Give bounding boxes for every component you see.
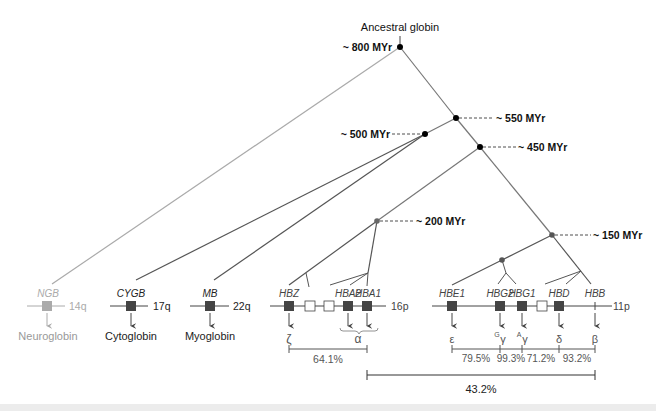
gene-label-hbb: HBB (585, 288, 606, 299)
node-150 (549, 232, 555, 238)
branch-hbg1 (506, 273, 516, 284)
product-sup-g: G (494, 331, 499, 338)
gene-label-mb: MB (203, 288, 218, 299)
identity-label-ggamma-agamma: 99.3% (497, 353, 525, 364)
product-label-alpha: α (355, 332, 362, 346)
identity-label-alpha-beta: 43.2% (465, 383, 496, 395)
gene-label-hbz: HBZ (279, 288, 300, 299)
product-label-epsilon: ε (450, 333, 455, 345)
gene-label-hba1: HBA1 (355, 288, 381, 299)
title-ancestral-globin: Ancestral globin (361, 21, 439, 33)
branch-root-550 (400, 47, 456, 118)
globin-evolution-diagram: Ancestral globin ~ 800 MYr ~ 550 MYr ~ 5… (0, 0, 656, 411)
node-label-800: ~ 800 MYr (343, 41, 392, 53)
node-label-450: ~ 450 MYr (518, 141, 567, 153)
product-label-cygb: Cytoglobin (105, 330, 157, 342)
identity-label-agamma-delta: 71.2% (527, 353, 555, 364)
gene-box-hba1 (362, 301, 372, 311)
product-label-g-gamma: γ (500, 333, 506, 345)
branch-ngb (52, 47, 400, 284)
diagram-canvas: Ancestral globin ~ 800 MYr ~ 550 MYr ~ 5… (0, 0, 656, 411)
chromosome-label-16p: 16p (391, 300, 409, 312)
node-500 (422, 131, 428, 137)
gene-box-hba2 (343, 301, 353, 311)
branch-hba2-b (350, 273, 368, 285)
gene-box-hbz (284, 301, 294, 311)
branch-hba (368, 221, 377, 273)
gene-label-hbg1: HBG1 (508, 288, 535, 299)
chromosome-label-11p: 11p (613, 300, 630, 312)
branch-550-500 (425, 118, 456, 134)
branch-mb (214, 134, 425, 280)
branch-hbb (552, 235, 591, 284)
gene-box-mb (205, 301, 215, 311)
node-label-550: ~ 550 MYr (496, 112, 545, 124)
node-label-150: ~ 150 MYr (593, 229, 642, 241)
identity-label-zeta-alpha: 64.1% (313, 353, 343, 365)
gene-box-hbg1 (517, 301, 527, 311)
pseudogene-box-1 (305, 301, 315, 311)
gene-box-hbd (554, 301, 564, 311)
chromosome-label-ngb: 14q (69, 300, 87, 312)
product-label-ngb: Neuroglobin (18, 330, 77, 342)
gene-box-hbe1 (447, 301, 457, 311)
pseudogene-box-3 (537, 301, 547, 311)
node-450 (477, 144, 483, 150)
branch-hba2-a (330, 273, 368, 285)
product-label-a-gamma: γ (522, 333, 528, 345)
node-800 (397, 44, 403, 50)
branch-450-150 (480, 147, 552, 235)
identity-label-epsilon-ggamma: 79.5% (462, 353, 490, 364)
product-label-zeta: ζ (286, 332, 292, 346)
product-label-mb: Myoglobin (185, 330, 235, 342)
branch-hba1 (367, 273, 368, 286)
pseudogene-box-2 (324, 301, 334, 311)
branch-hbg2 (498, 273, 506, 284)
gene-label-hbe1: HBE1 (439, 288, 465, 299)
product-sup-a: A (517, 331, 522, 338)
branch-150-gamma (502, 235, 552, 260)
gene-label-cygb: CYGB (117, 288, 146, 299)
gene-label-ngb: NGB (37, 288, 59, 299)
node-gamma (499, 257, 505, 263)
node-label-500: ~ 500 MYr (341, 128, 390, 140)
branch-hbz-stub (306, 273, 309, 287)
node-550 (453, 115, 459, 121)
chromosome-label-cygb: 17q (153, 300, 171, 312)
branch-hbe1 (452, 260, 502, 285)
product-label-beta: β (592, 333, 598, 345)
branch-450-200 (377, 147, 480, 221)
branch-hbd-a (545, 271, 581, 284)
branch-hbd-b (566, 271, 581, 284)
gene-box-ngb (42, 301, 52, 311)
gene-box-hbg2 (495, 301, 505, 311)
gene-box-cygb (126, 301, 136, 311)
bottom-band (0, 404, 656, 411)
node-label-200: ~ 200 MYr (416, 215, 465, 227)
identity-label-delta-beta: 93.2% (563, 353, 591, 364)
chromosome-label-mb: 22q (233, 300, 251, 312)
node-200 (374, 218, 380, 224)
product-label-delta: δ (556, 333, 562, 345)
branch-cygb (136, 134, 425, 280)
gene-label-hbd: HBD (548, 288, 569, 299)
branch-550-450 (456, 118, 480, 147)
